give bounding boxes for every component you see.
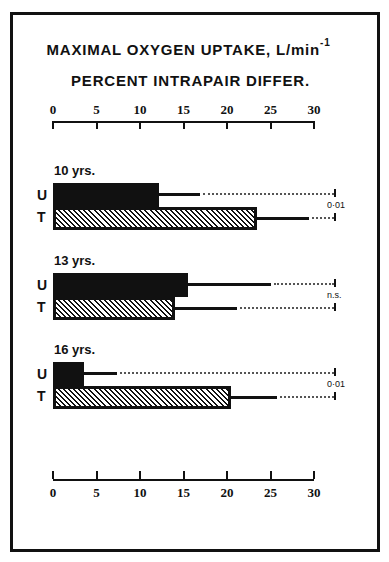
significance-bracket-bottom <box>334 213 336 221</box>
significance-label: 0·01 <box>327 200 345 210</box>
axis-tick <box>270 471 272 479</box>
tick-label: 0 <box>50 102 57 118</box>
bottom-x-axis <box>53 471 314 483</box>
bar-trained <box>53 386 231 409</box>
error-bar-untrained <box>159 193 200 196</box>
age-group-label: 10 yrs. <box>54 163 95 178</box>
tick-label: 25 <box>264 102 277 118</box>
axis-tick <box>183 121 185 129</box>
tick-label: 0 <box>50 485 57 501</box>
tick-label: 5 <box>93 485 100 501</box>
significance-bracket-bottom <box>334 392 336 400</box>
dotted-connector-u <box>203 193 334 195</box>
axis-tick <box>52 471 54 479</box>
axis-tick <box>96 471 98 479</box>
axis-tick <box>183 471 185 479</box>
dotted-connector-t <box>312 217 334 219</box>
chart-subtitle: PERCENT INTRAPAIR DIFFER. <box>0 72 385 89</box>
tick-label: 15 <box>177 102 190 118</box>
dotted-connector-t <box>280 396 334 398</box>
age-group-label: 13 yrs. <box>54 253 95 268</box>
significance-bracket-top <box>334 279 336 287</box>
axis-tick <box>313 121 315 129</box>
tick-label: 10 <box>134 102 147 118</box>
axis-tick <box>139 471 141 479</box>
tick-label: 20 <box>221 485 234 501</box>
axis-tick <box>270 121 272 129</box>
axis-tick <box>96 121 98 129</box>
tick-label: 25 <box>264 485 277 501</box>
error-bar-trained <box>231 396 277 399</box>
axis-line <box>53 479 314 481</box>
bar-untrained <box>53 183 159 207</box>
significance-label: 0·01 <box>327 379 345 389</box>
row-label-u: U <box>37 366 47 382</box>
chart-title: MAXIMAL OXYGEN UPTAKE, L/min-1 <box>0 40 383 58</box>
axis-tick <box>313 471 315 479</box>
dotted-connector-u <box>274 283 334 285</box>
row-label-u: U <box>37 277 47 293</box>
axis-tick <box>226 471 228 479</box>
row-label-t: T <box>37 209 46 225</box>
row-label-t: T <box>37 388 46 404</box>
error-bar-trained <box>175 307 237 310</box>
tick-label: 10 <box>134 485 147 501</box>
row-label-t: T <box>37 299 46 315</box>
axis-tick <box>226 121 228 129</box>
significance-bracket-top <box>334 368 336 376</box>
tick-label: 30 <box>308 485 321 501</box>
dotted-connector-t <box>240 307 334 309</box>
tick-label: 20 <box>221 102 234 118</box>
significance-label: n.s. <box>327 290 342 300</box>
tick-label: 15 <box>177 485 190 501</box>
tick-label: 5 <box>93 102 100 118</box>
age-group-label: 16 yrs. <box>54 342 95 357</box>
bar-untrained <box>53 273 188 297</box>
significance-bracket-top <box>334 189 336 197</box>
top-x-axis <box>53 121 314 133</box>
error-bar-trained <box>257 217 309 220</box>
bar-trained <box>53 297 175 320</box>
axis-tick <box>139 121 141 129</box>
significance-bracket-bottom <box>334 303 336 311</box>
dotted-connector-u <box>120 372 334 374</box>
bar-untrained <box>53 362 84 386</box>
tick-label: 30 <box>308 102 321 118</box>
error-bar-untrained <box>84 372 117 375</box>
error-bar-untrained <box>188 283 272 286</box>
row-label-u: U <box>37 187 47 203</box>
axis-tick <box>52 121 54 129</box>
bar-trained <box>53 207 257 230</box>
